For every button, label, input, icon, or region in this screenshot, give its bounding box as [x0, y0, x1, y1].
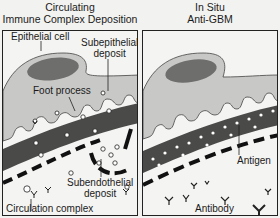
left-title-line2: Immune Complex Deposition: [0, 13, 140, 25]
right-title-line1: In Situ: [140, 1, 280, 13]
glomerulus-illustration-right: [143, 31, 278, 216]
label-epithelial-cell: Epithelial cell: [11, 31, 69, 42]
in-situ-anti-gbm-panel: Antigen Antibody: [142, 30, 278, 216]
label-subepithelial-deposit: Subepithelial deposit: [81, 37, 138, 59]
left-title-line1: Circulating: [0, 1, 140, 13]
right-panel-title: In Situ Anti-GBM: [140, 1, 280, 25]
label-antibody: Antibody: [195, 203, 234, 214]
label-foot-process: Foot process: [33, 85, 91, 96]
right-title-line2: Anti-GBM: [140, 13, 280, 25]
label-subendothelial-deposit: Subendothelial deposit: [67, 177, 133, 199]
label-circulation-complex: Circulation complex: [6, 203, 93, 214]
left-panel-title: Circulating Immune Complex Deposition: [0, 1, 140, 25]
label-antigen: Antigen: [237, 155, 271, 166]
circulating-immune-complex-panel: Epithelial cell Subepithelial deposit Fo…: [2, 30, 138, 216]
